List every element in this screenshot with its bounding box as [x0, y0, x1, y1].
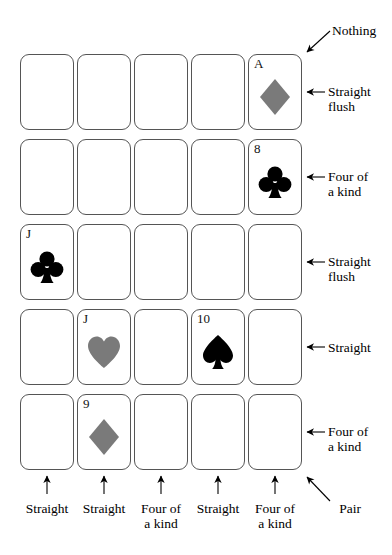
card-rank: 10 — [197, 311, 210, 326]
card-r2c2[interactable] — [134, 224, 188, 300]
diamond-suit-icon — [249, 71, 301, 123]
row-label-four-of-a-kind-1: Four of a kind — [328, 169, 368, 199]
card-r3c0[interactable] — [20, 309, 74, 385]
row-label-straight-flush-0: Straight flush — [328, 84, 371, 114]
card-rank: J — [83, 311, 88, 326]
card-r1c4[interactable]: 8 — [248, 139, 302, 215]
club-suit-icon — [21, 241, 73, 293]
club-suit-icon — [249, 156, 301, 208]
diamond-suit-icon — [78, 411, 130, 463]
card-r2c3[interactable] — [191, 224, 245, 300]
card-r3c1[interactable]: J — [77, 309, 131, 385]
card-rank: 9 — [83, 396, 90, 411]
card-r0c3[interactable] — [191, 54, 245, 130]
spade-suit-icon — [192, 326, 244, 378]
card-r3c2[interactable] — [134, 309, 188, 385]
card-r3c3[interactable]: 10 — [191, 309, 245, 385]
arrow-pair — [307, 477, 330, 501]
card-r1c0[interactable] — [20, 139, 74, 215]
row-label-straight-3: Straight — [328, 340, 371, 355]
card-r1c2[interactable] — [134, 139, 188, 215]
card-r2c4[interactable] — [248, 224, 302, 300]
poker-squares-diagram: A 8 J — [0, 0, 392, 555]
card-r0c0[interactable] — [20, 54, 74, 130]
card-r0c1[interactable] — [77, 54, 131, 130]
card-r3c4[interactable] — [248, 309, 302, 385]
card-r4c1[interactable]: 9 — [77, 394, 131, 470]
card-rank: 8 — [254, 141, 261, 156]
card-r4c2[interactable] — [134, 394, 188, 470]
card-r2c0[interactable]: J — [20, 224, 74, 300]
card-r4c3[interactable] — [191, 394, 245, 470]
arrow-nothing — [307, 31, 330, 52]
card-r1c1[interactable] — [77, 139, 131, 215]
row-label-straight-flush-2: Straight flush — [328, 254, 371, 284]
card-r4c0[interactable] — [20, 394, 74, 470]
card-r0c4[interactable]: A — [248, 54, 302, 130]
card-rank: J — [26, 226, 31, 241]
col-label-four-of-a-kind-4: Four of a kind — [236, 501, 314, 531]
diagonal-label-pair: Pair — [324, 501, 376, 516]
card-r1c3[interactable] — [191, 139, 245, 215]
card-r4c4[interactable] — [248, 394, 302, 470]
card-rank: A — [254, 56, 263, 71]
row-label-four-of-a-kind-4: Four of a kind — [328, 424, 368, 454]
card-r0c2[interactable] — [134, 54, 188, 130]
card-r2c1[interactable] — [77, 224, 131, 300]
diagonal-label-nothing: Nothing — [332, 23, 376, 38]
heart-suit-icon — [78, 326, 130, 378]
